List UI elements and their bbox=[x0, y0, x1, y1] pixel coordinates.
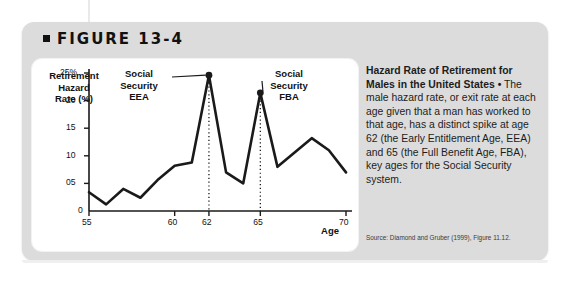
figure-label-text: FIGURE 13-4 bbox=[57, 30, 184, 48]
chart-series-line bbox=[89, 75, 346, 204]
chart-leader-lines bbox=[172, 75, 263, 91]
y-tick-label: 05 bbox=[66, 177, 76, 187]
caption-title: Hazard Rate of Retirement for Males in t… bbox=[366, 65, 513, 90]
y-tick-label: 10 bbox=[66, 150, 76, 160]
chart-droplines bbox=[209, 75, 260, 211]
page-artifact-line bbox=[88, 0, 90, 24]
caption-body-text: The male hazard rate, or exit rate at ea… bbox=[366, 79, 536, 185]
y-tick-label: 20 bbox=[66, 95, 76, 105]
chart-svg bbox=[32, 59, 358, 251]
figure-label: FIGURE 13-4 bbox=[43, 30, 184, 48]
x-tick-label: 55 bbox=[82, 217, 92, 227]
x-tick-label: 65 bbox=[253, 217, 263, 227]
figure-card: FIGURE 13-4 RetirementHazardRate (%) Age… bbox=[22, 22, 548, 260]
y-tick-label: 25% bbox=[60, 67, 77, 77]
chart-axes bbox=[84, 69, 352, 216]
y-tick-label: 15 bbox=[66, 122, 76, 132]
chart-peak-markers bbox=[206, 72, 264, 96]
square-bullet-icon bbox=[43, 35, 50, 42]
y-tick-label: 0 bbox=[78, 205, 83, 215]
x-tick-label: 70 bbox=[339, 217, 349, 227]
caption-text: Hazard Rate of Retirement for Males in t… bbox=[366, 64, 536, 186]
x-tick-label: 62 bbox=[202, 217, 212, 227]
chart-panel: RetirementHazardRate (%) Age Social Secu… bbox=[32, 59, 358, 251]
caption-source: Source: Diamond and Gruber (1999), Figur… bbox=[366, 233, 536, 242]
caption-panel: Hazard Rate of Retirement for Males in t… bbox=[366, 59, 538, 251]
x-tick-label: 60 bbox=[168, 217, 178, 227]
